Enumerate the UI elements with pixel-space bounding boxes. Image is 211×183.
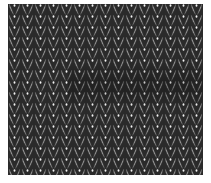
stitch-pattern [8, 4, 203, 175]
knitted-fabric [8, 4, 203, 175]
shadow-band [68, 62, 203, 107]
